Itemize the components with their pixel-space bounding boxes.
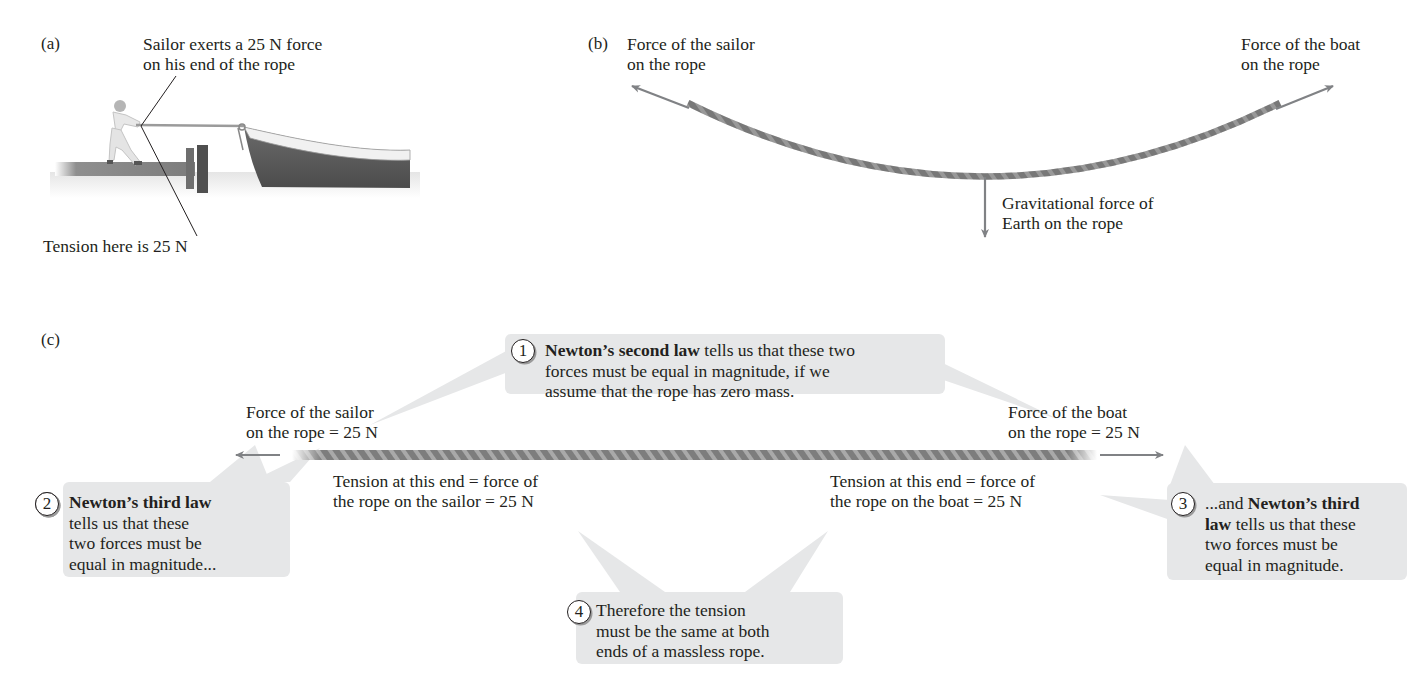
caption-line: on his end of the rope bbox=[143, 54, 322, 74]
callout-bubble-1: 1 Newton’s second law tells us that thes… bbox=[505, 334, 945, 394]
text-run: tells us that these two bbox=[700, 340, 855, 360]
callout-text: Therefore the tension must be the same a… bbox=[596, 600, 770, 662]
sailor-force-label-c: Force of the sailor on the rope = 25 N bbox=[246, 402, 378, 442]
label-line: on the rope = 25 N bbox=[246, 422, 378, 442]
text-line: equal in magnitude... bbox=[69, 554, 216, 575]
dock-post bbox=[186, 148, 194, 189]
boat bbox=[238, 124, 410, 188]
bold-term: Newton’s second law bbox=[545, 340, 700, 360]
label-line: the rope on the boat = 25 N bbox=[830, 491, 1035, 511]
text-run: ...and bbox=[1205, 493, 1248, 513]
text-line: equal in magnitude. bbox=[1205, 555, 1359, 576]
bold-term: law bbox=[1205, 514, 1231, 534]
label-line: Tension at this end = force of bbox=[333, 471, 538, 491]
tension-sailor-end-label: Tension at this end = force of the rope … bbox=[333, 471, 538, 511]
label-line: on the rope bbox=[627, 54, 755, 74]
text-line: ends of a massless rope. bbox=[596, 641, 770, 662]
bold-term: Newton’s third bbox=[1248, 493, 1360, 513]
label-line: Gravitational force of bbox=[1002, 193, 1154, 213]
callout-bubble-3: ...and Newton’s third law tells us that … bbox=[1167, 483, 1407, 580]
step-number-badge-2: 2 bbox=[35, 492, 59, 516]
sailor-force-label-b: Force of the sailor on the rope bbox=[627, 34, 755, 74]
rope bbox=[136, 125, 244, 126]
text-run: tells us that these bbox=[1231, 514, 1355, 534]
straight-rope bbox=[292, 450, 1097, 460]
callout-text: ...and Newton’s third law tells us that … bbox=[1205, 493, 1359, 575]
bold-term: Newton’s third law bbox=[69, 492, 211, 512]
step-number-badge: 4 bbox=[567, 600, 591, 624]
label-line: Earth on the rope bbox=[1002, 213, 1154, 233]
sailor-figure bbox=[107, 100, 142, 165]
sagging-rope-diagram bbox=[632, 86, 1333, 237]
text-line: two forces must be bbox=[1205, 534, 1359, 555]
caption-line: Sailor exerts a 25 N force bbox=[143, 34, 322, 54]
callout-bubble-4: 4 Therefore the tension must be the same… bbox=[576, 592, 843, 664]
label-line: Force of the sailor bbox=[246, 402, 378, 422]
label-line: Tension at this end = force of bbox=[830, 471, 1035, 491]
boat-force-label-b: Force of the boat on the rope bbox=[1241, 34, 1360, 74]
label-line: Force of the boat bbox=[1241, 34, 1360, 54]
label-line: the rope on the sailor = 25 N bbox=[333, 491, 538, 511]
boat-force-label-c: Force of the boat on the rope = 25 N bbox=[1008, 402, 1140, 442]
label-line: Force of the sailor bbox=[627, 34, 755, 54]
text-line: Therefore the tension bbox=[596, 600, 770, 621]
step-number-badge: 3 bbox=[1171, 492, 1195, 516]
text-line: forces must be equal in magnitude, if we bbox=[545, 361, 855, 382]
sailor-boat-illustration bbox=[50, 76, 420, 236]
label-line: on the rope bbox=[1241, 54, 1360, 74]
panel-c-label: (c) bbox=[41, 330, 60, 350]
sailor-force-caption: Sailor exerts a 25 N force on his end of… bbox=[143, 34, 322, 74]
dock-post bbox=[197, 145, 208, 193]
tension-boat-end-label: Tension at this end = force of the rope … bbox=[830, 471, 1035, 511]
boat-force-arrow bbox=[1276, 86, 1333, 109]
panel-b-label: (b) bbox=[588, 34, 608, 54]
dock bbox=[55, 162, 195, 176]
callout-text: Newton’s second law tells us that these … bbox=[545, 340, 855, 402]
straight-rope-diagram bbox=[236, 450, 1163, 460]
step-number-badge: 1 bbox=[511, 339, 535, 363]
panel-a-label: (a) bbox=[41, 34, 60, 54]
text-line: tells us that these bbox=[69, 513, 216, 534]
text-line: two forces must be bbox=[69, 533, 216, 554]
label-line: Force of the boat bbox=[1008, 402, 1140, 422]
tension-here-label: Tension here is 25 N bbox=[43, 236, 188, 256]
callout-bubble-2: 2 Newton’s third law tells us that these… bbox=[63, 482, 290, 577]
callout-text: Newton’s third law tells us that these t… bbox=[69, 492, 216, 574]
text-line: assume that the rope has zero mass. bbox=[545, 381, 855, 402]
sailor-force-arrow bbox=[632, 86, 689, 108]
label-line: on the rope = 25 N bbox=[1008, 422, 1140, 442]
pointer-line bbox=[141, 76, 176, 126]
gravity-force-label: Gravitational force of Earth on the rope bbox=[1002, 193, 1154, 233]
text-line: must be the same at both bbox=[596, 621, 770, 642]
